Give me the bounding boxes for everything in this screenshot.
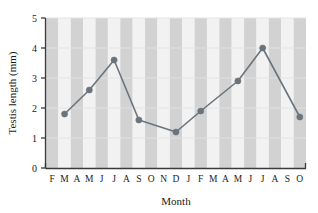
month-band <box>232 18 244 168</box>
month-band <box>71 18 83 168</box>
month-band <box>195 18 207 168</box>
x-axis-tick-label: A <box>74 174 81 184</box>
x-axis-tick-label: D <box>173 174 180 184</box>
x-axis-tick-label: O <box>148 174 155 184</box>
x-axis-tick-label: J <box>112 174 116 184</box>
month-band <box>256 18 268 168</box>
data-point-marker <box>235 78 241 84</box>
data-point-marker <box>198 108 204 114</box>
data-point-marker <box>260 45 266 51</box>
data-point-marker <box>61 111 67 117</box>
x-axis-tick-label: A <box>123 174 130 184</box>
x-axis-tick-label: M <box>85 174 94 184</box>
x-axis-tick-label: O <box>296 174 303 184</box>
month-band <box>120 18 132 168</box>
month-band <box>244 18 256 168</box>
y-axis-tick-label: 4 <box>32 43 37 54</box>
month-band <box>269 18 281 168</box>
y-axis-tick-label: 1 <box>32 133 37 144</box>
month-band <box>294 18 306 168</box>
month-band <box>145 18 157 168</box>
month-band <box>219 18 231 168</box>
x-axis-tick-label: N <box>160 174 167 184</box>
y-axis-tick-label: 5 <box>32 13 37 24</box>
x-axis-tick-label: J <box>187 174 191 184</box>
month-band <box>207 18 219 168</box>
month-band <box>157 18 169 168</box>
x-axis-tick-label: S <box>136 174 141 184</box>
month-bands <box>46 18 306 168</box>
month-band <box>133 18 145 168</box>
x-axis-tick-label: A <box>272 174 279 184</box>
y-axis-label: Testis length (mm) <box>6 51 19 134</box>
chart-figure: 012345 FMAMJJASONDJFMAMJJASO Testis leng… <box>0 0 318 213</box>
data-point-marker <box>136 117 142 123</box>
month-band <box>58 18 70 168</box>
month-band <box>46 18 58 168</box>
month-band <box>96 18 108 168</box>
x-axis-tick-label: M <box>60 174 69 184</box>
x-axis-tick-label: J <box>261 174 265 184</box>
data-point-marker <box>111 57 117 63</box>
x-axis-tick-label: J <box>100 174 104 184</box>
month-band <box>170 18 182 168</box>
x-axis-tick-label: A <box>222 174 229 184</box>
x-axis-tick-label: J <box>248 174 252 184</box>
y-axis-tick-label: 3 <box>32 73 37 84</box>
line-chart: 012345 FMAMJJASONDJFMAMJJASO Testis leng… <box>0 0 318 213</box>
data-point-marker <box>297 114 303 120</box>
data-point-marker <box>173 129 179 135</box>
x-axis-tick-label: F <box>198 174 203 184</box>
y-axis-tick-label: 2 <box>32 103 37 114</box>
x-axis-tick-label: M <box>209 174 218 184</box>
month-band <box>108 18 120 168</box>
x-axis-tick-label: S <box>285 174 290 184</box>
data-point-marker <box>86 87 92 93</box>
x-axis-tick-label: F <box>50 174 55 184</box>
x-axis-label: Month <box>161 195 191 207</box>
month-band <box>182 18 194 168</box>
x-axis-tick-label: M <box>234 174 243 184</box>
y-axis-tick-label: 0 <box>32 163 37 174</box>
